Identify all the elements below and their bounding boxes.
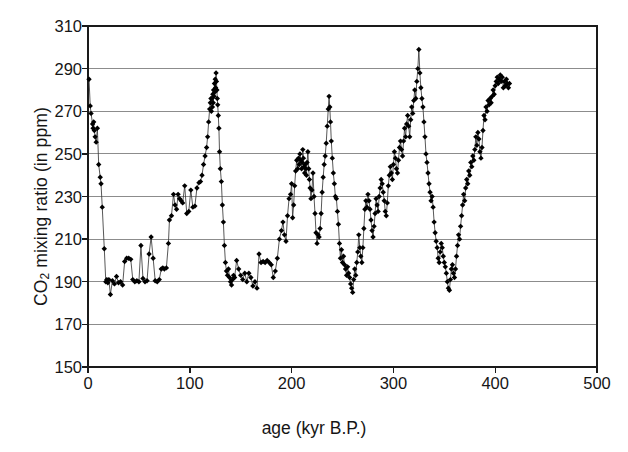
data-point — [431, 219, 436, 224]
data-point — [279, 228, 284, 233]
data-point — [275, 256, 280, 261]
data-point — [482, 117, 487, 122]
data-point — [86, 77, 91, 82]
data-point — [356, 232, 361, 237]
data-point — [138, 243, 143, 248]
data-point — [350, 290, 355, 295]
data-point — [326, 94, 331, 99]
data-point — [100, 204, 105, 209]
data-point — [329, 138, 334, 143]
data-point — [430, 204, 435, 209]
data-point — [325, 123, 330, 128]
data-point — [204, 145, 209, 150]
data-point — [300, 147, 305, 152]
data-point — [386, 183, 391, 188]
data-point — [332, 181, 337, 186]
data-point — [291, 202, 296, 207]
data-point — [390, 177, 395, 182]
data-point — [395, 170, 400, 175]
data-point — [96, 162, 101, 167]
data-point — [416, 47, 421, 52]
data-point — [442, 260, 447, 265]
data-point — [215, 102, 220, 107]
data-point — [408, 117, 413, 122]
x-axis-label: age (kyr B.P.) — [0, 418, 628, 439]
data-point — [426, 181, 431, 186]
data-point — [319, 190, 324, 195]
data-point — [421, 119, 426, 124]
data-point — [256, 251, 261, 256]
data-point — [335, 209, 340, 214]
data-point — [150, 256, 155, 261]
data-point — [420, 104, 425, 109]
data-point — [432, 230, 437, 235]
data-point — [312, 211, 317, 216]
data-point — [297, 151, 302, 156]
data-point — [331, 170, 336, 175]
data-point — [458, 224, 463, 229]
data-point — [328, 119, 333, 124]
data-point — [405, 113, 410, 118]
data-point — [216, 126, 221, 131]
data-point — [418, 85, 423, 90]
data-point — [205, 134, 210, 139]
data-point — [277, 236, 282, 241]
data-point — [324, 141, 329, 146]
data-point — [98, 181, 103, 186]
data-point — [318, 211, 323, 216]
data-point — [407, 134, 412, 139]
data-point — [434, 245, 439, 250]
data-point — [114, 274, 119, 279]
data-point — [361, 226, 366, 231]
data-point — [273, 268, 278, 273]
data-point — [414, 79, 419, 84]
data-point — [234, 258, 239, 263]
data-point — [220, 202, 225, 207]
data-point — [320, 175, 325, 180]
data-point — [321, 162, 326, 167]
data-point — [441, 253, 446, 258]
x-axis-label-text: age (kyr B.P.) — [262, 418, 367, 438]
data-point — [108, 292, 113, 297]
data-point — [330, 155, 335, 160]
data-point — [378, 177, 383, 182]
data-point — [102, 246, 107, 251]
data-point — [439, 241, 444, 246]
data-point — [360, 245, 365, 250]
series-markers-0 — [86, 47, 512, 297]
data-point — [422, 134, 427, 139]
co2-vostok-chart: CO2 mixing ratio (in ppm) 15017019021023… — [0, 0, 628, 452]
data-point — [354, 260, 359, 265]
data-point — [199, 172, 204, 177]
data-point — [188, 187, 193, 192]
data-point — [368, 217, 373, 222]
data-point — [213, 70, 218, 75]
data-point — [317, 226, 322, 231]
data-point — [271, 275, 276, 280]
data-point — [381, 190, 386, 195]
data-point — [359, 260, 364, 265]
data-point — [425, 170, 430, 175]
data-point — [384, 213, 389, 218]
data-point — [166, 241, 171, 246]
data-point — [216, 113, 221, 118]
data-point — [444, 271, 449, 276]
data-point — [480, 128, 485, 133]
data-point — [290, 215, 295, 220]
data-point — [285, 213, 290, 218]
data-point — [336, 222, 341, 227]
data-point — [419, 96, 424, 101]
data-point — [280, 219, 285, 224]
data-point — [194, 185, 199, 190]
data-point — [182, 183, 187, 188]
data-point — [314, 241, 319, 246]
data-point — [337, 241, 342, 246]
data-point — [437, 260, 442, 265]
data-point — [478, 155, 483, 160]
data-point — [310, 170, 315, 175]
data-point — [450, 262, 455, 267]
data-point — [174, 207, 179, 212]
data-point — [201, 162, 206, 167]
data-point — [454, 253, 459, 258]
data-point — [221, 219, 226, 224]
